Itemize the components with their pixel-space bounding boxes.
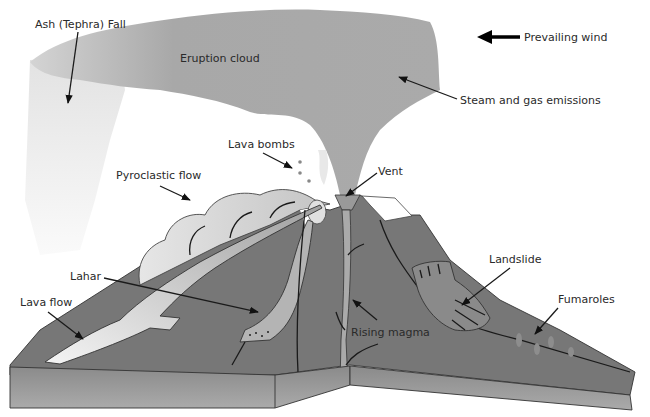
prevailing-wind-arrow-icon <box>477 30 520 44</box>
lava-bombs-arrow <box>263 153 292 168</box>
label-lava-flow: Lava flow <box>20 296 72 309</box>
label-prevailing-wind: Prevailing wind <box>524 31 607 44</box>
label-landslide: Landslide <box>489 253 542 266</box>
label-lahar: Lahar <box>70 270 102 283</box>
label-lava-bombs: Lava bombs <box>228 138 295 151</box>
front-face-left <box>10 366 350 408</box>
label-ash-fall: Ash (Tephra) Fall <box>35 18 126 31</box>
label-steam-gas: Steam and gas emissions <box>460 94 601 107</box>
label-fumaroles: Fumaroles <box>558 293 615 306</box>
label-rising-magma: Rising magma <box>351 326 430 339</box>
pyroclastic-flow-arrow <box>160 186 190 200</box>
ash-fall-curtain <box>25 55 125 255</box>
label-eruption-cloud: Eruption cloud <box>180 52 260 65</box>
lava-bombs <box>298 160 311 183</box>
volcano-diagram: Ash (Tephra) Fall Eruption cloud Prevail… <box>0 0 650 417</box>
steam-wisp <box>318 150 328 185</box>
ground-surface <box>10 195 635 395</box>
label-vent: Vent <box>378 165 403 178</box>
label-pyroclastic-flow: Pyroclastic flow <box>116 169 201 182</box>
